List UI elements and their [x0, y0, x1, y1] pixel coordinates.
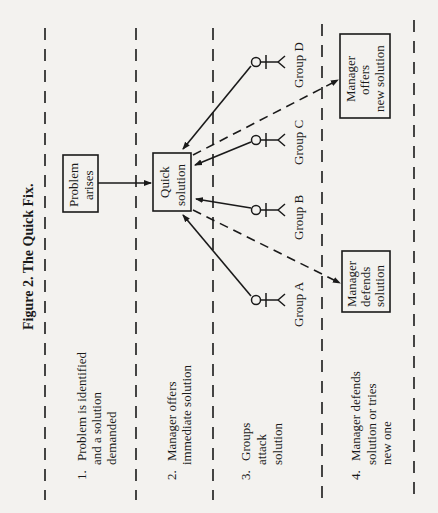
svg-text:new one: new one: [379, 421, 394, 465]
svg-text:solution: solution: [372, 265, 387, 307]
group-d-figure-icon: [252, 55, 286, 69]
group-b-figure-icon: [252, 203, 286, 217]
svg-text:2. Manager offers: 2. Manager offers: [164, 381, 179, 480]
group-d-label: Group D: [291, 42, 306, 88]
box-problem-arises: Problem arises: [63, 155, 98, 212]
group-a-label: Group A: [291, 281, 306, 327]
box-manager-offers: Manager offers new solution: [340, 34, 390, 118]
svg-text:demanded: demanded: [104, 411, 119, 465]
arrow-solution-to-manager-defends: [193, 210, 340, 283]
svg-text:attack: attack: [254, 433, 269, 465]
svg-text:immediate solution: immediate solution: [179, 364, 194, 465]
svg-text:solution or tries: solution or tries: [364, 383, 379, 465]
svg-text:Manager: Manager: [344, 260, 359, 307]
stage-label-1: 1. Problem is identified and a solution …: [74, 351, 119, 480]
stick-figures: [252, 55, 286, 307]
figure-title: Figure 2. The Quick Fix.: [21, 184, 36, 331]
svg-text:Manager: Manager: [343, 55, 358, 102]
svg-text:offers: offers: [357, 65, 372, 95]
svg-text:and a solution: and a solution: [89, 392, 104, 465]
arrow-group-a-to-solution: [183, 215, 251, 296]
group-c-figure-icon: [252, 133, 286, 147]
quick-fix-diagram: Figure 2. The Quick Fix. 1. Problem is i…: [0, 0, 438, 513]
box-manager-defends: Manager defends solution: [342, 251, 390, 312]
arrow-group-c-to-solution: [195, 142, 251, 165]
stage-label-4: 4. Manager defends solution or tries new…: [348, 371, 394, 480]
svg-text:3. Groups: 3. Groups: [238, 423, 253, 480]
svg-text:new solution: new solution: [372, 45, 387, 112]
svg-text:solution: solution: [270, 423, 285, 465]
box-quick-solution: Quick solution: [153, 153, 191, 211]
svg-text:4. Manager defends: 4. Manager defends: [348, 371, 363, 480]
stage-label-3: 3. Groups attack solution: [238, 423, 285, 480]
svg-text:1. Problem is identified: 1. Problem is identified: [74, 351, 89, 480]
group-a-figure-icon: [252, 293, 286, 307]
arrow-group-d-to-solution: [183, 66, 251, 149]
svg-text:solution: solution: [173, 164, 188, 206]
arrow-group-b-to-solution: [196, 199, 251, 208]
group-b-label: Group B: [291, 195, 306, 240]
stage-label-2: 2. Manager offers immediate solution: [164, 364, 194, 480]
svg-text:Quick: Quick: [157, 166, 172, 198]
svg-text:defends: defends: [358, 267, 373, 307]
group-c-label: Group C: [291, 120, 306, 165]
svg-text:Problem: Problem: [66, 163, 81, 207]
svg-text:arises: arises: [81, 170, 96, 200]
